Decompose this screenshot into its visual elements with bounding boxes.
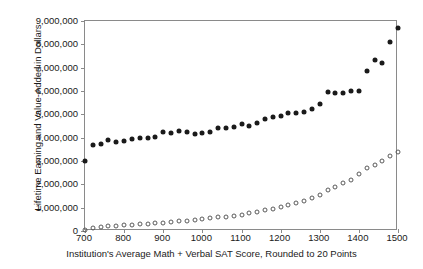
- data-point: [278, 205, 283, 210]
- data-point: [169, 220, 174, 225]
- x-axis-tick-label: 1200: [269, 232, 290, 243]
- data-point: [223, 214, 228, 219]
- x-axis-tick-label: 900: [154, 232, 170, 243]
- data-point: [262, 117, 267, 122]
- y-axis-tick-label: 7,000,000: [4, 61, 78, 72]
- data-point: [294, 111, 299, 116]
- data-point: [176, 128, 181, 133]
- data-point: [239, 212, 244, 217]
- plot-area: [84, 20, 397, 230]
- data-point: [262, 208, 267, 213]
- data-point: [208, 216, 213, 221]
- data-point: [333, 184, 338, 189]
- data-point: [192, 218, 197, 223]
- data-point: [114, 223, 119, 228]
- data-point: [302, 110, 307, 115]
- data-point: [122, 223, 127, 228]
- data-point: [396, 26, 401, 31]
- x-axis-tick-label: 700: [76, 232, 92, 243]
- data-point: [114, 140, 119, 145]
- data-point: [137, 135, 142, 140]
- y-axis-tick-mark: [81, 184, 85, 185]
- data-point: [247, 124, 252, 129]
- data-point: [90, 225, 95, 230]
- data-point: [380, 61, 385, 66]
- data-point: [255, 209, 260, 214]
- data-point: [388, 154, 393, 159]
- data-point: [255, 120, 260, 125]
- y-axis-tick-mark: [81, 68, 85, 69]
- y-axis-tick-mark: [81, 114, 85, 115]
- data-point: [161, 220, 166, 225]
- data-point: [372, 162, 377, 167]
- data-point: [286, 203, 291, 208]
- y-axis-tick-mark: [81, 208, 85, 209]
- y-axis-tick-mark: [81, 91, 85, 92]
- data-point: [169, 131, 174, 136]
- data-point: [364, 69, 369, 74]
- scatter-chart-figure: Lifetime Earning and Value-Added in Doll…: [0, 0, 423, 269]
- data-point: [286, 111, 291, 116]
- data-point: [223, 126, 228, 131]
- y-axis-tick-labels: 01,000,0002,000,0003,000,0004,000,0005,0…: [4, 0, 78, 269]
- y-axis-tick-label: 8,000,000: [4, 38, 78, 49]
- data-point: [184, 129, 189, 134]
- data-point: [294, 201, 299, 206]
- data-point: [153, 221, 158, 226]
- data-point: [302, 198, 307, 203]
- data-point: [349, 177, 354, 182]
- data-point: [98, 225, 103, 230]
- data-point: [309, 106, 314, 111]
- data-point: [200, 131, 205, 136]
- x-axis-tick-labels: 700800900100011001200130014001500: [0, 232, 423, 248]
- data-point: [200, 217, 205, 222]
- data-point: [341, 91, 346, 96]
- y-axis-tick-mark: [81, 44, 85, 45]
- data-point: [364, 166, 369, 171]
- data-point: [356, 171, 361, 176]
- data-point: [90, 142, 95, 147]
- data-point: [396, 149, 401, 154]
- x-axis-title: Institution's Average Math + Verbal SAT …: [0, 248, 423, 259]
- y-axis-tick-label: 4,000,000: [4, 131, 78, 142]
- data-point: [145, 135, 150, 140]
- x-axis-tick-label: 1000: [191, 232, 212, 243]
- y-axis-tick-label: 9,000,000: [4, 15, 78, 26]
- data-point: [372, 57, 377, 62]
- data-point: [216, 215, 221, 220]
- data-point: [231, 125, 236, 130]
- data-point: [176, 219, 181, 224]
- data-point: [106, 138, 111, 143]
- data-point: [270, 114, 275, 119]
- data-point: [208, 129, 213, 134]
- data-point: [278, 113, 283, 118]
- data-point: [129, 136, 134, 141]
- y-axis-tick-label: 6,000,000: [4, 85, 78, 96]
- data-point: [216, 126, 221, 131]
- data-point: [98, 141, 103, 146]
- x-axis-tick-label: 1500: [386, 232, 407, 243]
- data-point: [83, 159, 88, 164]
- y-axis-tick-label: 1,000,000: [4, 201, 78, 212]
- data-point: [333, 91, 338, 96]
- data-point: [137, 222, 142, 227]
- y-axis-tick-mark: [81, 138, 85, 139]
- data-point: [270, 206, 275, 211]
- data-point: [231, 213, 236, 218]
- data-point: [153, 134, 158, 139]
- y-axis-tick-label: 5,000,000: [4, 108, 78, 119]
- x-axis-tick-label: 1400: [347, 232, 368, 243]
- data-point: [122, 139, 127, 144]
- x-axis-tick-label: 1100: [230, 232, 250, 243]
- data-point: [247, 211, 252, 216]
- data-point: [106, 224, 111, 229]
- data-point: [309, 195, 314, 200]
- y-axis-tick-label: 2,000,000: [4, 178, 78, 189]
- data-point: [161, 129, 166, 134]
- x-axis-tick-label: 1300: [308, 232, 329, 243]
- x-axis-tick-label: 800: [115, 232, 131, 243]
- data-point: [341, 181, 346, 186]
- data-point: [129, 222, 134, 227]
- data-point: [192, 132, 197, 137]
- data-point: [349, 89, 354, 94]
